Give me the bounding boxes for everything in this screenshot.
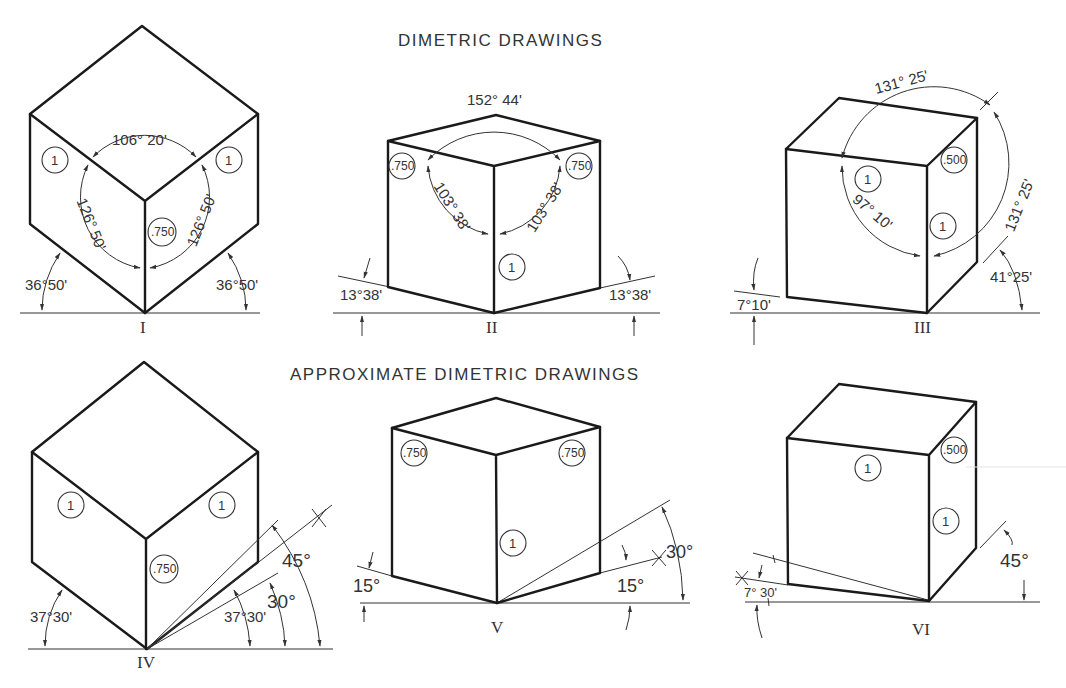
right-base-angle: 45° xyxy=(1000,550,1029,571)
angle-top: 106° 20' xyxy=(112,131,167,148)
angle-30: 30° xyxy=(267,591,296,612)
angle-right: 126° 50' xyxy=(183,191,219,248)
construction-mark xyxy=(312,509,326,527)
svg-text:.500: .500 xyxy=(943,153,967,167)
svg-text:.750: .750 xyxy=(568,159,592,173)
figure-v: 15° 15° 30° .750 .750 1 V xyxy=(353,398,693,637)
angle-30: 30° xyxy=(666,542,693,562)
figure-ii: 152° 44' 103° 38' 103° 38' 13°38' 13°38'… xyxy=(333,91,660,337)
svg-text:1: 1 xyxy=(67,498,74,513)
svg-text:1: 1 xyxy=(508,260,515,275)
svg-text:1: 1 xyxy=(864,461,871,476)
left-base-angle: 36°50' xyxy=(25,276,67,293)
figure-i: 106° 20' 126° 50' 126° 50' 36°50' 36°50'… xyxy=(20,26,260,337)
figure-iv: 37°30' 37°30' 30° 45° 1 1 .750 IV xyxy=(28,362,333,672)
cube-outline xyxy=(786,98,977,313)
angle-left: 103° 38' xyxy=(431,179,474,235)
right-base-angle: 15° xyxy=(617,576,644,596)
svg-text:1: 1 xyxy=(864,172,871,187)
left-angle-line xyxy=(357,566,392,576)
figure-label: II xyxy=(486,318,498,337)
angle-45: 45° xyxy=(282,550,311,571)
svg-text:1: 1 xyxy=(225,153,232,168)
right-base-angle: 13°38' xyxy=(609,286,651,303)
left-angle-line xyxy=(735,577,788,585)
figure-label: V xyxy=(491,618,504,637)
svg-text:.750: .750 xyxy=(151,225,175,239)
svg-text:.750: .750 xyxy=(153,562,177,576)
figure-label: VI xyxy=(912,620,930,639)
right-base-angle: 41°25' xyxy=(990,268,1032,285)
cube-outline xyxy=(787,384,976,601)
svg-text:.750: .750 xyxy=(403,446,427,460)
right-angle-line xyxy=(983,236,1008,263)
title-approximate-dimetric-drawings: APPROXIMATE DIMETRIC DRAWINGS xyxy=(290,365,640,384)
arc-top xyxy=(842,87,990,158)
svg-text:.750: .750 xyxy=(391,159,415,173)
construction-mark xyxy=(736,571,748,585)
left-base-angle: 7°10' xyxy=(737,296,771,313)
svg-text:1: 1 xyxy=(51,153,58,168)
figure-iii: 131° 25' 97° 10' 131° 25' 7°10' 41°25' 1… xyxy=(730,66,1040,345)
svg-text:1: 1 xyxy=(942,514,949,529)
cube-inner-edges xyxy=(787,402,976,601)
figure-vi: 7° 30' 45° 1 .500 1 VI xyxy=(735,384,1066,639)
svg-text:.500: .500 xyxy=(943,443,967,457)
right-base-angle: 36°50' xyxy=(216,276,258,293)
figure-label: I xyxy=(140,318,146,337)
left-base-angle: 15° xyxy=(353,576,380,596)
svg-text:.750: .750 xyxy=(561,446,585,460)
construction-mark xyxy=(652,550,666,566)
dimetric-drawings-diagram: DIMETRIC DRAWINGS APPROXIMATE DIMETRIC D… xyxy=(0,0,1066,688)
construction-line xyxy=(753,553,928,600)
angle-top: 152° 44' xyxy=(467,91,522,108)
figure-label: III xyxy=(914,318,931,337)
left-base-angle: 13°38' xyxy=(340,286,382,303)
left-base-angle: 7° 30' xyxy=(744,585,777,600)
angle-right: 103° 38' xyxy=(523,179,566,235)
svg-text:1: 1 xyxy=(509,536,516,551)
figure-label: IV xyxy=(137,653,156,672)
angle-left: 126° 50' xyxy=(73,195,109,252)
svg-text:1: 1 xyxy=(939,219,946,234)
right-angle-line xyxy=(980,521,1006,548)
title-dimetric-drawings: DIMETRIC DRAWINGS xyxy=(398,31,603,50)
svg-text:1: 1 xyxy=(218,498,225,513)
angle-left: 97° 10' xyxy=(850,190,897,233)
